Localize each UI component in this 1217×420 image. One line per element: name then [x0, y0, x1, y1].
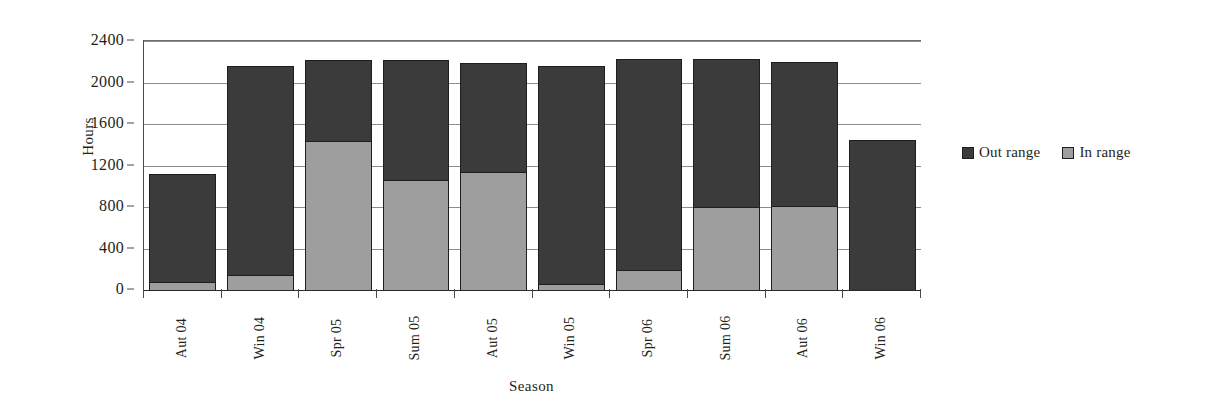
bar-stack[interactable]: [616, 59, 683, 290]
bar-segment-out-range[interactable]: [227, 66, 294, 276]
x-tick-mark: [532, 289, 533, 298]
bar-segment-out-range[interactable]: [305, 60, 372, 141]
x-label-slot: Win 05: [532, 300, 610, 370]
bar-slot: [843, 41, 921, 290]
bar-slot: [533, 41, 611, 290]
x-tick-mark: [143, 289, 144, 298]
bar-segment-in-range[interactable]: [693, 207, 760, 290]
stacked-bar-chart: Hours 04008001200160020002400 Aut 04Win …: [0, 0, 1217, 420]
y-tick-label: 2000: [91, 73, 124, 91]
y-tick-mark: [127, 81, 134, 82]
x-label-slot: Aut 04: [143, 300, 221, 370]
y-tick-label: 800: [99, 197, 124, 215]
x-label-slot: Aut 06: [765, 300, 843, 370]
x-tick-mark: [376, 289, 377, 298]
bar-stack[interactable]: [771, 62, 838, 290]
legend-item[interactable]: Out range: [962, 144, 1040, 161]
x-tick-mark: [920, 289, 921, 298]
bar-slot: [766, 41, 844, 290]
bar-stack[interactable]: [383, 60, 450, 290]
y-tick-mark: [127, 123, 134, 124]
x-tick-label: Aut 06: [795, 298, 811, 378]
bar-slot: [610, 41, 688, 290]
x-label-slot: Spr 06: [609, 300, 687, 370]
x-tick-label: Win 06: [873, 298, 889, 378]
x-tick-label: Sum 05: [407, 298, 423, 378]
x-label-slot: Win 06: [842, 300, 920, 370]
bar-stack[interactable]: [538, 66, 605, 290]
x-tick-mark: [298, 289, 299, 298]
bar-segment-out-range[interactable]: [849, 140, 916, 290]
y-tick-label: 1200: [91, 156, 124, 174]
bar-slot: [455, 41, 533, 290]
y-axis-ticks: 04008001200160020002400: [62, 40, 134, 289]
bar-slot: [688, 41, 766, 290]
x-tick-mark: [765, 289, 766, 298]
y-tick-mark: [127, 164, 134, 165]
x-label-slot: Aut 05: [454, 300, 532, 370]
bar-segment-out-range[interactable]: [693, 59, 760, 207]
bar-segment-in-range[interactable]: [305, 141, 372, 290]
y-tick-label: 2400: [91, 31, 124, 49]
x-tick-label: Aut 04: [174, 298, 190, 378]
bar-segment-out-range[interactable]: [149, 174, 216, 282]
legend-label: In range: [1079, 144, 1130, 161]
y-tick-mark: [127, 247, 134, 248]
bar-segment-out-range[interactable]: [383, 60, 450, 180]
x-label-slot: Spr 05: [298, 300, 376, 370]
bar-segment-out-range[interactable]: [616, 59, 683, 271]
plot-area: [143, 40, 921, 290]
legend-swatch-icon: [1062, 147, 1074, 159]
x-tick-label: Win 05: [562, 298, 578, 378]
bar-segment-out-range[interactable]: [538, 66, 605, 284]
bar-slot: [144, 41, 222, 290]
x-tick-label: Aut 05: [485, 298, 501, 378]
x-label-slot: Sum 06: [687, 300, 765, 370]
x-label-slot: Sum 05: [376, 300, 454, 370]
bar-stack[interactable]: [305, 60, 372, 290]
bar-group: [144, 41, 921, 290]
x-tick-mark: [609, 289, 610, 298]
bar-stack[interactable]: [693, 59, 760, 290]
y-tick-label: 400: [99, 239, 124, 257]
x-axis-title: Season: [143, 378, 920, 395]
y-tick-mark: [127, 289, 134, 290]
x-axis-labels: Aut 04Win 04Spr 05Sum 05Aut 05Win 05Spr …: [143, 300, 920, 370]
legend-item[interactable]: In range: [1062, 144, 1130, 161]
x-tick-label: Spr 05: [329, 298, 345, 378]
bar-slot: [377, 41, 455, 290]
x-tick-mark: [842, 289, 843, 298]
bar-slot: [299, 41, 377, 290]
bar-segment-in-range[interactable]: [771, 206, 838, 290]
bar-slot: [222, 41, 300, 290]
bar-segment-in-range[interactable]: [227, 275, 294, 290]
x-tick-label: Sum 06: [718, 298, 734, 378]
bar-stack[interactable]: [460, 63, 527, 290]
x-tick-label: Spr 06: [640, 298, 656, 378]
bar-segment-out-range[interactable]: [460, 63, 527, 172]
y-tick-label: 0: [116, 280, 124, 298]
x-tick-mark: [454, 289, 455, 298]
y-tick-mark: [127, 206, 134, 207]
x-tick-mark: [687, 289, 688, 298]
bar-segment-out-range[interactable]: [771, 62, 838, 206]
y-tick-mark: [127, 40, 134, 41]
chart-legend: Out rangeIn range: [962, 144, 1131, 161]
x-label-slot: Win 04: [221, 300, 299, 370]
bar-stack[interactable]: [849, 140, 916, 290]
x-tick-mark: [221, 289, 222, 298]
x-tick-label: Win 04: [252, 298, 268, 378]
bar-segment-in-range[interactable]: [616, 270, 683, 290]
bar-segment-in-range[interactable]: [383, 180, 450, 290]
legend-label: Out range: [979, 144, 1040, 161]
bar-segment-in-range[interactable]: [460, 172, 527, 290]
y-tick-label: 1600: [91, 114, 124, 132]
bar-stack[interactable]: [149, 174, 216, 290]
bar-stack[interactable]: [227, 66, 294, 290]
legend-swatch-icon: [962, 147, 974, 159]
